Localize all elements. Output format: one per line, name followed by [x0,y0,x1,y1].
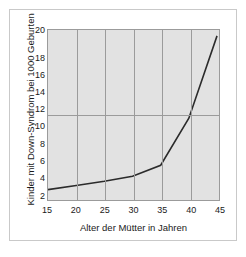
x-tick-15: 15 [35,206,59,215]
series-line-down-syndrome [48,36,217,190]
x-axis-title: Alter der Mütter in Jahren [47,222,220,233]
x-tick-45: 45 [208,206,232,215]
caption-fragment [9,246,237,255]
x-axis-tick-layer: 15 20 25 30 35 40 45 [47,206,220,218]
x-tick-35: 35 [150,206,174,215]
x-tick-25: 25 [93,206,117,215]
x-tick-20: 20 [64,206,88,215]
x-tick-40: 40 [179,206,203,215]
figure-frame: 2 4 6 8 10 12 14 16 18 20 15 20 25 30 35… [9,9,237,241]
gridline-horizontal-10 [48,115,219,116]
plot-area [47,29,220,201]
y-axis-title: Kinder mit Down-Syndrom bei 1000 Geburte… [25,26,36,206]
down-syndrome-incidence-chart: 2 4 6 8 10 12 14 16 18 20 15 20 25 30 35… [10,10,238,242]
x-tick-30: 30 [122,206,146,215]
